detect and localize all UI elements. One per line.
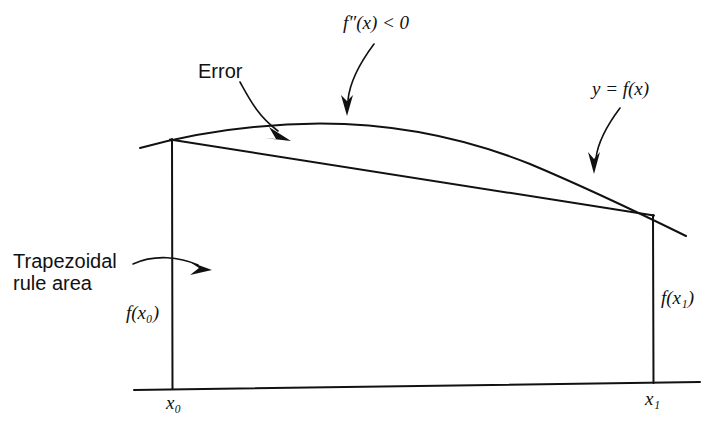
error-leader-line — [240, 82, 278, 131]
f-x1-label: f(x₁) — [661, 287, 694, 308]
trapezoidal-rule-area-label: Trapezoidal rule area — [13, 250, 117, 295]
trapezoid-chord-line — [170, 140, 654, 216]
ordinate-x1-line — [653, 215, 654, 383]
baseline-axis — [134, 382, 700, 390]
error-label: Error — [198, 60, 242, 82]
x1-axis-label: x₁ — [645, 388, 660, 409]
second-derivative-leader-line — [348, 44, 374, 100]
function-label-leader-line — [596, 108, 620, 158]
trapezoidal-rule-area-label-line2: rule area — [13, 272, 117, 294]
error-arrow-head — [264, 127, 291, 141]
trapezoidal-rule-area-label-line1: Trapezoidal — [13, 250, 117, 272]
figure-canvas — [0, 0, 720, 438]
f-x0-label: f(x₀) — [126, 302, 159, 323]
trapezoid-arrow-head — [190, 262, 212, 275]
second-derivative-label: f″(x) < 0 — [343, 12, 409, 33]
function-curve — [140, 124, 686, 237]
x0-axis-label: x₀ — [166, 392, 181, 413]
trapezoidal-rule-figure: Error f″(x) < 0 y = f(x) Trapezoidal rul… — [0, 0, 720, 438]
ordinate-x0-line — [172, 139, 173, 389]
function-label-arrow-head — [588, 152, 600, 174]
second-derivative-arrow-head — [341, 95, 353, 116]
function-equation-label: y = f(x) — [592, 78, 649, 99]
trapezoid-leader-line — [133, 258, 198, 265]
